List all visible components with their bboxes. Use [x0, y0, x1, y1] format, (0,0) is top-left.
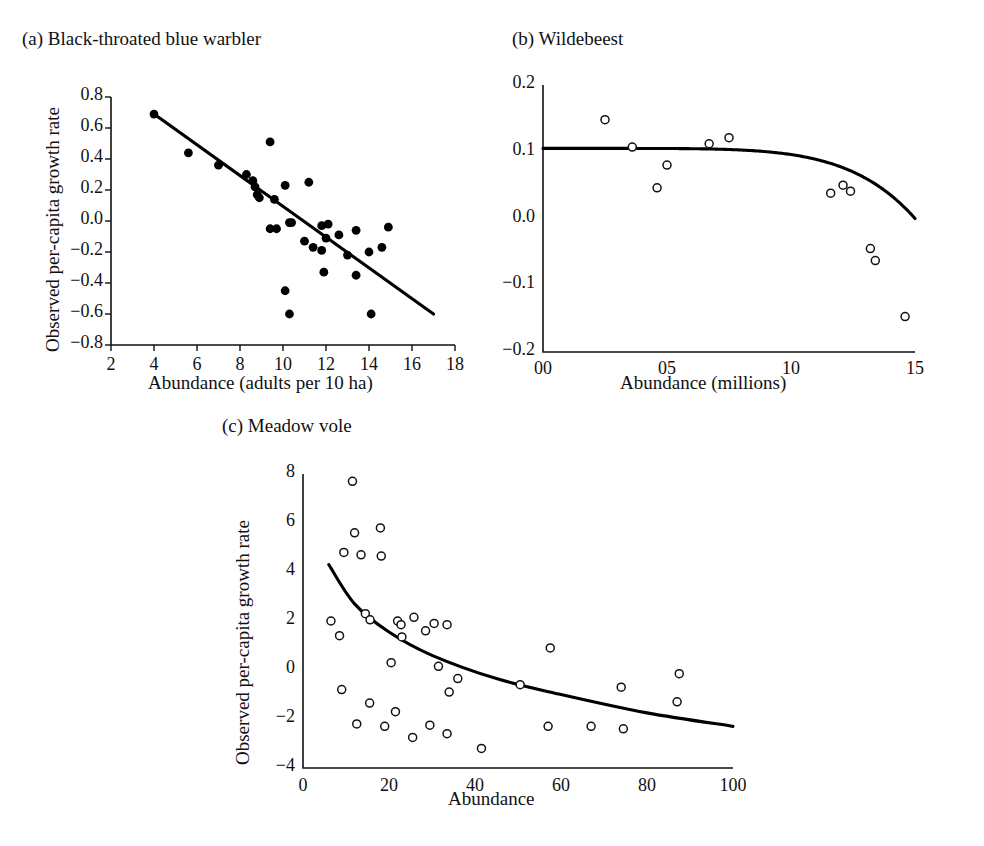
panel-c-data-point: [366, 699, 374, 707]
panel-a-ytick-8: 0.8: [53, 84, 103, 105]
panel-c-data-point: [351, 529, 359, 537]
panel-c-xtick-3: 60: [539, 775, 583, 796]
panel-c-data-point: [381, 722, 389, 730]
panel-c-data-point: [336, 632, 344, 640]
panel-c-data-point: [348, 477, 356, 485]
panel-c-ytick-1: −2: [253, 706, 295, 727]
panel-c-ytick-0: −4: [253, 755, 295, 776]
panel-c-data-point: [338, 686, 346, 694]
panel-a-xtick-1: 4: [134, 354, 174, 375]
panel-c-data-point: [477, 744, 485, 752]
panel-c-data-point: [397, 621, 405, 629]
panel-c-data-point: [327, 617, 335, 625]
panel-c-ytick-6: 8: [253, 461, 295, 482]
panel-c-data-point: [434, 662, 442, 670]
panel-a-xtick-5: 12: [306, 354, 346, 375]
panel-c-data-point: [454, 675, 462, 683]
panel-b-xtick-0: 00: [523, 358, 563, 379]
panel-c-data-point: [410, 613, 418, 621]
panel-b-ytick-1: −0.1: [481, 272, 535, 293]
panel-c-data-point: [430, 619, 438, 627]
panel-a-xtick-8: 18: [435, 354, 475, 375]
panel-c-data-point: [617, 683, 625, 691]
panel-a-ytick-4: 0.0: [53, 208, 103, 229]
panel-b-ytick-0: −0.2: [481, 339, 535, 360]
panel-a-ytick-0: −0.8: [53, 332, 103, 353]
panel-c-ytick-4: 4: [253, 559, 295, 580]
panel-a-xtick-6: 14: [349, 354, 389, 375]
panel-a-ytick-1: −0.6: [53, 301, 103, 322]
panel-c-data-point: [619, 725, 627, 733]
panel-c-data-point: [443, 621, 451, 629]
panel-c-xtick-1: 20: [367, 775, 411, 796]
panel-b-xtick-1: 05: [647, 358, 687, 379]
panel-c-data-point: [587, 722, 595, 730]
panel-c-xtick-4: 80: [625, 775, 669, 796]
panel-a-xtick-3: 8: [220, 354, 260, 375]
panel-c-ytick-3: 2: [253, 608, 295, 629]
panel-c-xtick-5: 100: [711, 775, 755, 796]
panel-c-data-point: [366, 616, 374, 624]
panel-c-xtick-2: 40: [453, 775, 497, 796]
panel-c-data-point: [443, 730, 451, 738]
panel-b-ytick-4: 0.2: [481, 72, 535, 93]
panel-a-ytick-5: 0.2: [53, 177, 103, 198]
panel-a-xtick-4: 10: [263, 354, 303, 375]
panel-a-ytick-7: 0.6: [53, 115, 103, 136]
panel-c-data-point: [675, 670, 683, 678]
panel-a-ytick-6: 0.4: [53, 146, 103, 167]
panel-c-data-point: [426, 721, 434, 729]
panel-c-data-point: [340, 548, 348, 556]
panel-c-data-point: [544, 722, 552, 730]
panel-c-data-point: [398, 633, 406, 641]
panel-c-xtick-0: 0: [281, 775, 325, 796]
panel-c-data-point: [376, 524, 384, 532]
panel-c-data-point: [409, 733, 417, 741]
panel-c-data-point: [391, 708, 399, 716]
panel-b-ytick-2: 0.0: [481, 206, 535, 227]
panel-c-data-point: [377, 552, 385, 560]
panel-c-data-point: [445, 688, 453, 696]
panel-b-xtick-2: 10: [771, 358, 811, 379]
panel-b-xtick-3: 15: [895, 358, 935, 379]
panel-a-xtick-2: 6: [177, 354, 217, 375]
panel-c-data-point: [546, 644, 554, 652]
panel-c-data-point: [357, 551, 365, 559]
panel-c-plot: [0, 0, 984, 846]
panel-c-ytick-5: 6: [253, 510, 295, 531]
panel-c-data-point: [516, 681, 524, 689]
panel-b-ytick-3: 0.1: [481, 139, 535, 160]
panel-c-data-point: [387, 659, 395, 667]
panel-c-data-point: [673, 698, 681, 706]
panel-c-ytick-2: 0: [253, 657, 295, 678]
panel-c-data-point: [353, 720, 361, 728]
panel-a-xtick-0: 2: [91, 354, 131, 375]
panel-a-xtick-7: 16: [392, 354, 432, 375]
panel-a-ytick-3: −0.2: [53, 239, 103, 260]
panel-a-ytick-2: −0.4: [53, 270, 103, 291]
panel-c-data-point: [422, 627, 430, 635]
